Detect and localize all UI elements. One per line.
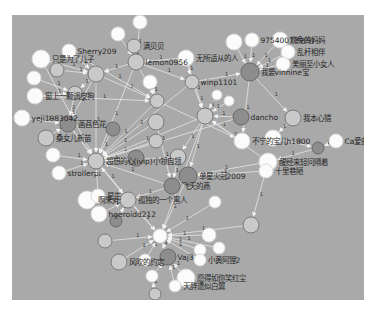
graph-node-n58[interactable]	[111, 254, 127, 270]
graph-node-n27[interactable]	[212, 90, 222, 100]
edge-weight-label: 1	[275, 91, 278, 97]
node-label: 孤独的一个黑人	[138, 195, 188, 205]
node-label: 菡萏色花	[78, 119, 107, 129]
graph-node-n64[interactable]	[169, 280, 181, 292]
edge-weight-label: 1	[222, 110, 225, 116]
edge-weight-label: 1	[244, 53, 247, 59]
graph-node-n15[interactable]	[14, 110, 30, 126]
graph-node-n55[interactable]	[202, 228, 216, 242]
graph-edge	[41, 80, 68, 90]
node-label: 我本心猎	[303, 113, 332, 123]
edge-weight-label: 1	[111, 173, 114, 179]
graph-node-n49[interactable]	[120, 192, 136, 208]
edge-weight-label: 1	[191, 133, 194, 139]
edge-weight-label: 1	[149, 188, 152, 194]
edge-weight-label: 1	[136, 232, 139, 238]
graph-node-n38[interactable]	[234, 133, 250, 149]
edge-weight-label: 1	[124, 128, 127, 134]
graph-node-n50[interactable]	[91, 206, 107, 222]
node-label: dancho	[251, 113, 279, 122]
graph-node-n28[interactable]	[224, 96, 234, 106]
edge-weight-label: 1	[217, 103, 220, 109]
edge-weight-label: 1	[283, 123, 286, 129]
edge-weight-label: 1	[200, 95, 203, 101]
graph-node-n29[interactable]	[226, 34, 242, 50]
graph-node-n7[interactable]	[88, 66, 104, 82]
node-label: 十里巷陋	[275, 166, 304, 176]
graph-node-n61[interactable]	[194, 254, 206, 266]
graph-node-n65[interactable]	[149, 288, 161, 300]
edge-weight-label: 1	[131, 166, 134, 172]
graph-node-n19[interactable]	[148, 114, 164, 130]
node-label: 乱杆相伴	[297, 47, 326, 57]
graph-node-n41[interactable]	[329, 134, 343, 148]
graph-node-n62[interactable]	[146, 270, 158, 282]
edge-weight-label: 1	[140, 119, 143, 125]
graph-node-n37[interactable]	[285, 110, 301, 126]
edge-weight-label: 1	[124, 137, 127, 143]
edge-weight-label: 1	[168, 67, 171, 73]
node-label: 星生	[107, 191, 122, 201]
graph-node-n45[interactable]	[164, 178, 180, 194]
edge-weight-label: 1	[143, 242, 146, 248]
graph-node-n35[interactable]	[197, 108, 213, 124]
graph-node-n12[interactable]	[27, 88, 43, 104]
graph-node-n8[interactable]	[128, 54, 144, 70]
node-label: Vaj3	[178, 253, 194, 262]
node-label: 单星火冠2009	[199, 171, 246, 181]
node-label: lemon0956	[146, 58, 189, 67]
graph-node-n13[interactable]	[143, 75, 157, 89]
node-label: yeji1983042	[32, 114, 79, 123]
node-label: 无所适从的人	[196, 53, 239, 63]
network-graph[interactable]: 1111111111111111111111111111111111111111…	[12, 15, 364, 300]
network-graph-canvas[interactable]: 1111111111111111111111111111111111111111…	[12, 15, 364, 300]
graph-node-n34[interactable]	[241, 63, 259, 81]
graph-node-n21[interactable]	[46, 148, 60, 162]
edge-weight-label: 1	[105, 141, 108, 147]
edge-weight-label: 1	[260, 191, 263, 197]
graph-node-n43[interactable]	[259, 164, 273, 178]
node-label: 我要vinnine宝	[261, 67, 310, 77]
node-label: 飞天的燕	[182, 181, 211, 191]
graph-node-n6[interactable]	[50, 63, 64, 77]
graph-node-n17[interactable]	[106, 122, 120, 136]
graph-node-n10[interactable]	[27, 71, 41, 85]
graph-node-n20[interactable]	[149, 134, 163, 148]
graph-node-n46[interactable]	[209, 196, 221, 208]
edge-weight-label: 1	[115, 63, 118, 69]
graph-node-n2[interactable]	[111, 27, 125, 41]
node-label: 窗上一颗调皮狗	[45, 91, 94, 101]
graph-node-n30[interactable]	[245, 33, 259, 47]
edge-weight-label: 1	[176, 167, 179, 173]
graph-node-n1[interactable]	[133, 15, 147, 29]
edge-weight-label: 1	[197, 143, 200, 149]
node-label: winp1101	[201, 78, 238, 87]
graph-node-n56[interactable]	[213, 242, 225, 254]
edge-weight-label: 1	[80, 160, 83, 166]
graph-node-n22[interactable]	[88, 153, 104, 169]
edge-weight-label: 1	[78, 152, 81, 158]
node-label: 烧免的妈妈	[290, 35, 326, 45]
edge-weight-label: 1	[118, 73, 121, 79]
edge-weight-label: 1	[179, 241, 182, 247]
node-label: 只是为了儿子	[52, 54, 95, 64]
graph-node-n52[interactable]	[153, 229, 167, 243]
graph-node-n14[interactable]	[150, 94, 164, 108]
graph-node-n18[interactable]	[38, 130, 54, 146]
graph-node-n54[interactable]	[98, 234, 112, 248]
edge-weight-label: 1	[292, 150, 295, 156]
graph-node-n25[interactable]	[52, 166, 66, 180]
node-label: strollerp	[68, 169, 99, 178]
edge-weight-label: 1	[85, 78, 88, 84]
graph-node-n40[interactable]	[312, 142, 324, 154]
graph-node-n36[interactable]	[233, 109, 249, 125]
node-label: 桑女儿新苗	[56, 133, 92, 143]
node-label: 风吹的约定	[129, 257, 165, 267]
graph-node-n26[interactable]	[185, 75, 199, 89]
edge-weight-label: 1	[103, 93, 106, 99]
graph-node-n5[interactable]	[32, 50, 50, 68]
node-label: 小黄阿狸2	[208, 255, 241, 265]
edge-weight-label: 1	[188, 235, 191, 241]
graph-node-n53[interactable]	[243, 217, 259, 233]
graph-node-n3[interactable]	[127, 39, 141, 53]
